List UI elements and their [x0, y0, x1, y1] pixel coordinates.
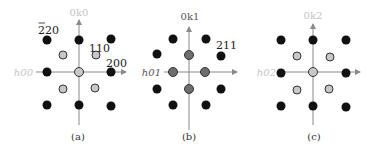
v-axis-label: 0k2	[304, 10, 323, 21]
panel-c: 0k2 h02 (c)	[257, 10, 360, 142]
caption-b: (b)	[182, 131, 196, 142]
caption-c: (c)	[307, 131, 321, 142]
spot-label-110: 110	[89, 42, 110, 55]
spot-label-211: 211	[216, 39, 237, 52]
caption-a: (a)	[71, 131, 85, 142]
spot-label-200: 200	[106, 57, 127, 70]
spot-label-220: 220	[38, 24, 59, 37]
panel-b: 0k1 h01 211 (b)	[142, 11, 237, 142]
h-axis-label: h00	[14, 67, 34, 78]
h-axis-label: h01	[142, 67, 161, 78]
panel-a: 0k0 h00 220 110 200 (a)	[14, 7, 127, 142]
v-axis-label: 0k1	[181, 11, 200, 22]
v-axis-label: 0k0	[70, 7, 89, 18]
diffraction-patterns-figure: 0k0 h00 220 110 200 (a) 0k1 h01 211	[0, 0, 380, 153]
h-axis-label: h02	[257, 67, 276, 78]
